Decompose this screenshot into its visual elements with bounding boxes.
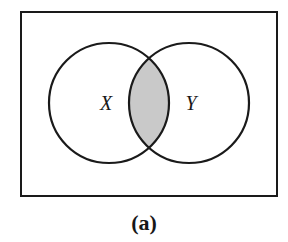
figure-caption: (a) — [131, 210, 157, 235]
venn-diagram-canvas: X Y (a) — [0, 0, 288, 242]
set-x-label: X — [99, 92, 113, 114]
venn-diagram-figure: X Y (a) — [0, 0, 288, 242]
set-y-label: Y — [185, 92, 198, 114]
